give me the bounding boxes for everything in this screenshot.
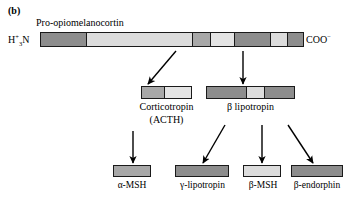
segment-alpha-msh-region — [192, 33, 210, 46]
alpha-msh-label: α-MSH — [96, 180, 168, 190]
segment-acth-clip-region — [210, 33, 234, 46]
beta-msh-bar — [243, 165, 281, 177]
gamma-lipotropin-bar — [175, 165, 229, 177]
beta-endorphin-bar — [291, 165, 343, 177]
segment-signal-peptide — [41, 33, 86, 46]
n-term-charge: + — [15, 33, 19, 40]
arrow-pomc-to-corticotropin — [148, 51, 176, 84]
alpha-msh-bar — [113, 165, 151, 177]
segment-beta-endorphin-region — [264, 87, 294, 98]
beta-lipotropin-label: β lipotropin — [201, 101, 300, 112]
c-term-charge: − — [327, 33, 331, 40]
precursor-title: Pro-opiomelanocortin — [36, 17, 124, 28]
segment-gamma-lipotropin-region — [234, 33, 271, 46]
arrow-beta-lipotropin-to-beta-endorphin — [288, 125, 313, 163]
beta-endorphin-label: β-endorphin — [286, 180, 347, 190]
segment-gamma-lipotropin-region — [207, 87, 246, 98]
segment-beta-msh-region — [246, 87, 263, 98]
figure-panel: (b) Pro-opiomelanocortin H+3N COO− Corti… — [0, 0, 347, 202]
gamma-lipotropin-label: γ-lipotropin — [160, 180, 245, 190]
pro-opiomelanocortin-bar — [40, 32, 304, 47]
arrow-beta-lipotropin-to-gamma-lipotropin — [203, 125, 225, 163]
segment-alpha-msh-region — [142, 87, 164, 98]
c-term-base: COO — [306, 34, 327, 45]
corticotropin-acronym-label: (ACTH) — [116, 114, 217, 125]
segment-beta-msh-region — [270, 33, 287, 46]
segment-beta-endorphin-region — [287, 33, 303, 46]
segment-pro-region — [86, 33, 192, 46]
c-terminus-label: COO− — [306, 34, 331, 45]
corticotropin-bar — [141, 86, 192, 99]
segment-clip-region — [164, 87, 191, 98]
panel-letter: (b) — [8, 5, 20, 16]
beta-msh-label: β-MSH — [234, 180, 292, 190]
beta-lipotropin-bar — [206, 86, 295, 99]
n-terminus-label: H+3N — [8, 34, 29, 45]
n-term-tail: N — [22, 34, 29, 45]
